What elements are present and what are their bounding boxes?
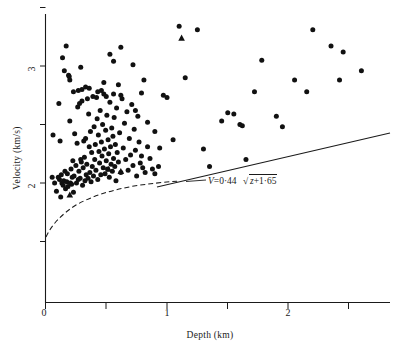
data-point-circle	[103, 128, 108, 133]
data-point-circle	[111, 92, 116, 97]
y-tick-label-3: 3	[26, 67, 37, 72]
x-tick-label-0: 0	[42, 307, 47, 318]
data-point-circle	[310, 27, 315, 32]
data-point-circle	[87, 170, 92, 175]
data-point-circle	[231, 111, 236, 116]
data-point-circle	[145, 120, 150, 125]
data-point-circle	[207, 164, 212, 169]
scatter-plot-figure: 0 1 2 3 2 Depth (km) Velocity (km/s) V=0…	[0, 0, 399, 347]
data-point-circle	[73, 163, 78, 168]
data-point-circle	[107, 175, 112, 180]
data-point-circle	[137, 140, 142, 145]
data-point-circle	[240, 123, 245, 128]
equation-leader-line	[186, 180, 206, 182]
data-point-circle	[92, 124, 97, 129]
data-point-circle	[359, 68, 364, 73]
data-point-circle	[95, 116, 100, 121]
data-point-circle	[111, 156, 116, 161]
data-point-circle	[152, 171, 157, 176]
data-point-circle	[140, 165, 145, 170]
data-point-circle	[78, 176, 83, 181]
data-point-circle	[92, 157, 97, 162]
data-point-circle	[79, 159, 84, 164]
fit-equation-annotation: V=0·44 √ z+1·65	[208, 175, 277, 187]
y-axis-title: Velocity (km/s)	[12, 126, 23, 189]
data-point-circle	[304, 89, 309, 94]
data-point-circle	[132, 127, 137, 132]
data-point-circle	[71, 190, 76, 195]
data-point-circle	[67, 78, 72, 83]
data-point-circle	[102, 147, 107, 152]
data-point-circle	[58, 138, 63, 143]
velocity-depth-scatter-chart: 0 1 2 3 2 Depth (km) Velocity (km/s) V=0…	[0, 0, 399, 347]
data-point-circle	[65, 171, 70, 176]
data-point-circle	[129, 102, 134, 107]
data-point-circle	[116, 82, 121, 87]
data-point-circle	[243, 157, 248, 162]
data-point-triangle	[178, 35, 185, 41]
data-point-circle	[110, 134, 115, 139]
data-point-circle	[133, 148, 138, 153]
data-point-circle	[71, 89, 76, 94]
data-point-circle	[143, 170, 148, 175]
data-point-circle	[292, 78, 297, 83]
data-point-circle	[62, 68, 67, 73]
data-point-circle	[126, 168, 131, 173]
data-point-circle	[147, 156, 152, 161]
data-point-circle	[83, 136, 88, 141]
y-axis-ticks	[40, 8, 46, 242]
data-point-circle	[69, 166, 74, 171]
data-point-circle	[274, 114, 279, 119]
data-point-circle	[94, 95, 99, 100]
data-point-circle	[82, 155, 87, 160]
data-point-circle	[123, 157, 128, 162]
data-point-circle	[156, 164, 161, 169]
data-point-circle	[139, 90, 144, 95]
data-point-circle	[107, 100, 112, 105]
data-point-circle	[104, 158, 109, 163]
data-point-circle	[108, 144, 113, 149]
data-point-circle	[98, 172, 103, 177]
data-point-circle	[116, 159, 121, 164]
data-point-circle	[84, 162, 89, 167]
data-point-circle	[177, 24, 182, 29]
data-point-circle	[89, 150, 94, 155]
data-point-circle	[50, 175, 55, 180]
data-point-circle	[101, 165, 106, 170]
data-point-circle	[64, 44, 69, 49]
data-point-circle	[113, 142, 118, 147]
data-point-circle	[201, 147, 206, 152]
data-point-circle	[118, 45, 123, 50]
data-point-circle	[141, 78, 146, 83]
data-point-circle	[89, 179, 94, 184]
data-point-circle	[115, 150, 120, 155]
data-point-circle	[121, 145, 126, 150]
data-point-circle	[96, 133, 101, 138]
data-point-circle	[103, 171, 108, 176]
data-point-circle	[118, 93, 123, 98]
data-point-circle	[341, 49, 346, 54]
data-point-circle	[72, 131, 77, 136]
data-point-circle	[99, 140, 104, 145]
data-point-circle	[51, 133, 56, 138]
data-point-circle	[81, 165, 86, 170]
data-point-circle	[113, 178, 118, 183]
data-point-circle	[133, 108, 138, 113]
data-point-circle	[150, 166, 155, 171]
data-point-circle	[93, 168, 98, 173]
data-point-circle	[135, 114, 140, 119]
data-point-circle	[52, 181, 57, 186]
x-axis-title: Depth (km)	[186, 330, 233, 341]
data-point-circle	[80, 183, 85, 188]
data-point-circle	[128, 152, 133, 157]
data-point-circle	[219, 118, 224, 123]
data-point-circle	[122, 121, 127, 126]
data-point-circle	[114, 106, 119, 111]
data-point-circle	[329, 44, 334, 49]
y-tick-label-2: 2	[26, 184, 37, 189]
data-point-circle	[127, 136, 132, 141]
data-point-circle	[67, 118, 72, 123]
data-point-circle	[107, 52, 112, 57]
data-point-circle	[104, 94, 109, 99]
data-point-circle	[97, 161, 102, 166]
